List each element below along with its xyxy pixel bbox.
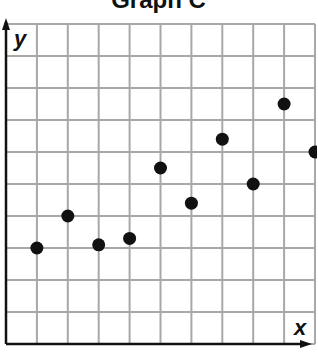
grid-lines xyxy=(6,24,315,344)
scatter-plot: y x xyxy=(0,0,317,357)
data-point xyxy=(92,238,105,251)
data-point xyxy=(61,210,74,223)
data-point xyxy=(309,146,318,159)
data-point xyxy=(247,178,260,191)
data-point xyxy=(154,162,167,175)
data-point xyxy=(216,133,229,146)
data-point xyxy=(185,197,198,210)
data-points xyxy=(30,98,317,255)
x-axis-label: x xyxy=(293,315,307,340)
y-axis-label: y xyxy=(13,26,28,51)
x-axis-arrow-icon xyxy=(300,340,312,348)
data-point xyxy=(123,232,136,245)
data-point xyxy=(30,242,43,255)
data-point xyxy=(278,98,291,111)
